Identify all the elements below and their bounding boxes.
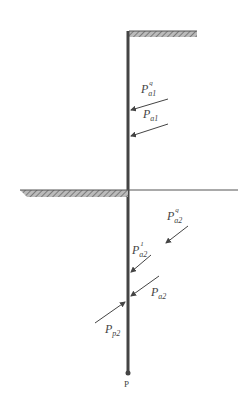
excavation-ground-hatch [20, 190, 128, 197]
arrow-pa1 [131, 124, 168, 136]
label-pa2q: Pa2q [167, 207, 179, 225]
label-pa2-1: Pa21 [132, 241, 144, 259]
top-ground-hatch [129, 31, 197, 37]
label-pa1: Pa1 [143, 108, 158, 123]
diagram-canvas: Pa1q Pa1 Pa2q Pa21 Pa2 Pp2 P [0, 0, 249, 409]
point-p-dot [126, 371, 131, 376]
label-pp2: Pp2 [105, 323, 120, 338]
arrow-pa2q [166, 226, 188, 243]
arrow-pp2 [95, 302, 125, 323]
label-pa1q: Pa1q [141, 80, 153, 98]
label-point-p: P [124, 379, 129, 389]
label-pa2: Pa2 [151, 286, 166, 301]
diagram-drawing [0, 0, 249, 409]
